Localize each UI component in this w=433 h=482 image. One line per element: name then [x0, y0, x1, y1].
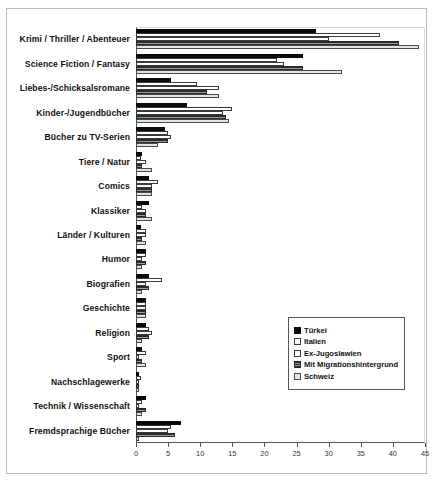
bar [136, 143, 158, 147]
legend-item: Italien [294, 337, 398, 346]
x-axis: 051015202530354045 [136, 443, 425, 465]
category-label: Comics [98, 181, 130, 191]
bar [136, 192, 152, 196]
axis-tick [168, 443, 169, 447]
bar [136, 119, 229, 123]
axis-tick-label: 0 [134, 449, 138, 458]
bar [136, 217, 152, 221]
axis-tick-label: 25 [292, 449, 300, 458]
bar [136, 265, 142, 269]
legend-label: Mit Migrationshintergrund [304, 360, 398, 369]
bar [136, 339, 142, 343]
category-label: Technik / Wissenschaft [33, 401, 130, 411]
category-label: Humor [102, 254, 130, 264]
legend-label: Schweiz [304, 372, 334, 381]
bar [136, 363, 146, 367]
axis-tick [200, 443, 201, 447]
axis-tick-label: 15 [228, 449, 236, 458]
bar [136, 290, 142, 294]
axis-tick [264, 443, 265, 447]
legend-swatch-icon [294, 373, 301, 380]
bar [136, 412, 142, 416]
bar [136, 45, 419, 49]
bar [136, 433, 175, 437]
bar [136, 388, 139, 392]
bar [136, 314, 146, 318]
category-label: Kinder-/Jugendbücher [36, 108, 130, 118]
category-label: Bücher zu TV-Serien [45, 132, 130, 142]
category-label: Science Fiction / Fantasy [25, 59, 130, 69]
legend-item: Mit Migrationshintergrund [294, 360, 398, 369]
legend-item: Ex-Jugoslawien [294, 349, 398, 358]
axis-tick [232, 443, 233, 447]
category-label: Religion [95, 328, 130, 338]
legend-swatch-icon [294, 338, 301, 345]
category-label: Tiere / Natur [79, 157, 130, 167]
legend-label: Ex-Jugoslawien [304, 349, 361, 358]
axis-tick-label: 30 [325, 449, 333, 458]
axis-tick-label: 20 [260, 449, 268, 458]
legend-item: Türkei [294, 326, 398, 335]
axis-tick [425, 443, 426, 447]
chart-page: Krimi / Thriller / AbenteuerScience Fict… [0, 0, 433, 482]
category-label: Klassiker [91, 206, 130, 216]
axis-tick-label: 45 [421, 449, 429, 458]
legend-label: Italien [304, 337, 326, 346]
bar [136, 241, 146, 245]
legend-swatch-icon [294, 361, 301, 368]
bar [136, 168, 152, 172]
bar [136, 70, 342, 74]
axis-tick [329, 443, 330, 447]
bar [136, 437, 139, 441]
figure-frame: Krimi / Thriller / AbenteuerScience Fict… [6, 8, 427, 474]
axis-tick-label: 5 [166, 449, 170, 458]
axis-tick-label: 35 [357, 449, 365, 458]
category-label: Liebes-/Schicksalsromane [20, 83, 130, 93]
legend-swatch-icon [294, 327, 301, 334]
chart-legend: TürkeiItalienEx-JugoslawienMit Migration… [288, 317, 405, 390]
category-label: Sport [107, 352, 130, 362]
legend-item: Schweiz [294, 372, 398, 381]
axis-tick [297, 443, 298, 447]
axis-tick [136, 443, 137, 447]
category-label: Krimi / Thriller / Abenteuer [20, 34, 130, 44]
bar [136, 94, 219, 98]
category-label: Geschichte [83, 303, 130, 313]
category-label: Fremdsprachige Bücher [29, 426, 130, 436]
axis-tick [361, 443, 362, 447]
category-label: Nachschlagewerke [51, 377, 130, 387]
category-label: Biografien [87, 279, 131, 289]
axis-tick [393, 443, 394, 447]
legend-swatch-icon [294, 350, 301, 357]
axis-tick-label: 40 [389, 449, 397, 458]
axis-tick-label: 10 [196, 449, 204, 458]
legend-label: Türkei [304, 326, 327, 335]
category-label: Länder / Kulturen [57, 230, 130, 240]
